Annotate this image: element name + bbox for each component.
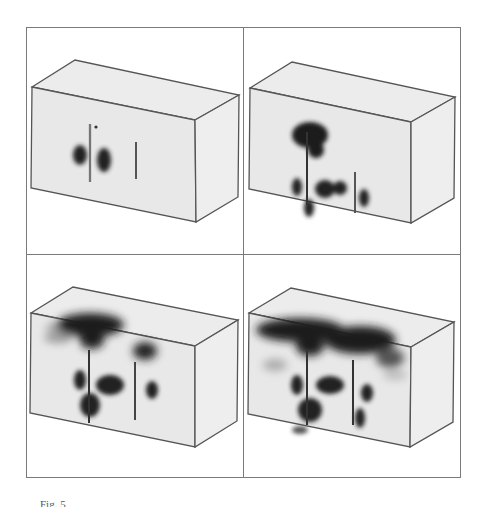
panel-d bbox=[244, 255, 460, 478]
figure-caption: Fig. 5 bbox=[40, 499, 66, 507]
panel-a bbox=[27, 28, 243, 254]
panel-b bbox=[244, 28, 460, 254]
panel-c bbox=[27, 255, 243, 478]
